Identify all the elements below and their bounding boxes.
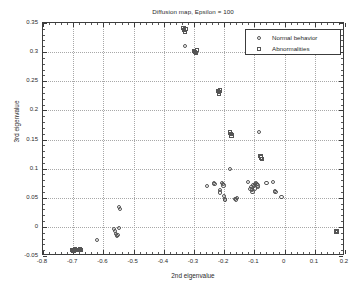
axis-minor-tick-y xyxy=(341,215,343,216)
axis-minor-tick-y xyxy=(341,99,343,100)
legend-label: Normal behavior xyxy=(272,34,317,41)
legend-marker-square xyxy=(257,47,261,51)
data-point-normal xyxy=(114,232,118,236)
axis-minor-tick-x xyxy=(242,23,243,25)
axis-minor-tick-x xyxy=(61,252,62,254)
axis-minor-tick-x xyxy=(97,252,98,254)
axis-minor-tick-x xyxy=(303,252,304,254)
axis-minor-tick-y xyxy=(43,215,45,216)
axis-minor-tick-y xyxy=(43,180,45,181)
data-point-normal xyxy=(205,184,209,188)
axis-minor-tick-y xyxy=(341,75,343,76)
axis-minor-tick-x xyxy=(309,23,310,25)
gridline-vertical xyxy=(103,23,104,254)
axis-minor-tick-x xyxy=(79,23,80,25)
axis-minor-tick-y xyxy=(43,174,45,175)
axis-tick-x xyxy=(73,23,74,27)
axis-tick-x xyxy=(103,23,104,27)
gridline-horizontal xyxy=(43,140,343,141)
axis-tick-y xyxy=(339,81,343,82)
legend-marker-circle xyxy=(257,36,261,40)
axis-minor-tick-y xyxy=(43,186,45,187)
axis-minor-tick-x xyxy=(297,23,298,25)
data-point-abnormal xyxy=(334,230,338,234)
axis-tick-y xyxy=(339,227,343,228)
gridline-vertical xyxy=(164,23,165,254)
axis-minor-tick-x xyxy=(67,252,68,254)
axis-minor-tick-y xyxy=(43,64,45,65)
axis-minor-tick-x xyxy=(176,252,177,254)
axis-tick-x xyxy=(254,250,255,254)
axis-minor-tick-x xyxy=(279,23,280,25)
data-point-normal xyxy=(212,182,216,186)
data-point-abnormal xyxy=(216,89,220,93)
axis-tick-x xyxy=(315,23,316,27)
axis-minor-tick-x xyxy=(273,23,274,25)
data-point-normal xyxy=(95,238,99,242)
axis-minor-tick-y xyxy=(43,116,45,117)
axis-minor-tick-x xyxy=(122,23,123,25)
axis-minor-tick-y xyxy=(43,209,45,210)
axis-minor-tick-x xyxy=(158,252,159,254)
axis-minor-tick-y xyxy=(43,58,45,59)
axis-minor-tick-y xyxy=(43,192,45,193)
axis-minor-tick-x xyxy=(291,252,292,254)
gridline-horizontal xyxy=(43,110,343,111)
y-tick-label: 0.35 xyxy=(4,19,38,25)
axis-tick-x xyxy=(224,250,225,254)
axis-tick-x xyxy=(254,23,255,27)
data-point-abnormal xyxy=(258,154,262,158)
axis-minor-tick-y xyxy=(43,122,45,123)
data-point-normal xyxy=(115,234,119,238)
axis-minor-tick-y xyxy=(43,46,45,47)
axis-minor-tick-y xyxy=(43,105,45,106)
axis-minor-tick-x xyxy=(170,252,171,254)
y-axis-title: 3rd eigenvalue xyxy=(13,62,20,182)
axis-minor-tick-y xyxy=(43,204,45,205)
data-point-normal xyxy=(273,189,277,193)
axis-tick-x xyxy=(103,250,104,254)
axis-minor-tick-y xyxy=(43,128,45,129)
axis-tick-y xyxy=(339,140,343,141)
axis-minor-tick-y xyxy=(43,145,45,146)
axis-tick-y xyxy=(43,110,47,111)
data-point-abnormal xyxy=(182,28,186,32)
axis-minor-tick-x xyxy=(242,252,243,254)
axis-minor-tick-y xyxy=(43,244,45,245)
gridline-vertical xyxy=(194,23,195,254)
axis-tick-x xyxy=(315,250,316,254)
data-point-normal xyxy=(255,183,259,187)
axis-minor-tick-x xyxy=(248,252,249,254)
axis-tick-x xyxy=(134,250,135,254)
axis-minor-tick-y xyxy=(341,29,343,30)
gridline-horizontal xyxy=(43,81,343,82)
data-point-normal xyxy=(248,187,252,191)
y-tick-label: -0.05 xyxy=(4,252,38,258)
data-point-normal xyxy=(218,190,222,194)
gridline-vertical xyxy=(134,23,135,254)
axis-tick-x xyxy=(285,23,286,27)
axis-minor-tick-y xyxy=(43,151,45,152)
axis-minor-tick-x xyxy=(321,23,322,25)
data-point-normal xyxy=(271,180,275,184)
data-point-abnormal xyxy=(229,133,233,137)
axis-minor-tick-x xyxy=(85,252,86,254)
axis-minor-tick-x xyxy=(297,252,298,254)
axis-minor-tick-x xyxy=(230,23,231,25)
legend[interactable]: Normal behaviorAbnormalities xyxy=(245,29,341,55)
data-point-abnormal xyxy=(260,157,264,161)
axis-minor-tick-x xyxy=(212,23,213,25)
axis-minor-tick-x xyxy=(200,252,201,254)
axis-tick-y xyxy=(43,169,47,170)
axis-minor-tick-x xyxy=(339,252,340,254)
axis-minor-tick-y xyxy=(341,163,343,164)
plot-area[interactable] xyxy=(42,22,344,255)
data-point-normal xyxy=(183,44,187,48)
axis-minor-tick-y xyxy=(341,134,343,135)
axis-minor-tick-x xyxy=(206,23,207,25)
axis-minor-tick-x xyxy=(279,252,280,254)
x-tick-label: 0.2 xyxy=(340,258,348,264)
data-point-abnormal xyxy=(334,229,338,233)
axis-minor-tick-y xyxy=(341,239,343,240)
gridline-horizontal xyxy=(43,198,343,199)
